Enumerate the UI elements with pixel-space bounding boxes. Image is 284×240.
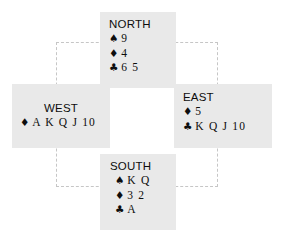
hand-east-label: EAST bbox=[183, 90, 272, 104]
hand-south-diamonds: 3 2 bbox=[127, 189, 145, 201]
club-icon: ♣ bbox=[115, 203, 124, 215]
club-icon: ♣ bbox=[109, 61, 118, 73]
hand-east-clubs-row: ♣ K Q J 10 bbox=[183, 119, 272, 134]
hand-south: SOUTH ♠ K Q ♦ 3 2 ♣ A bbox=[100, 154, 176, 230]
hand-south-label: SOUTH bbox=[109, 159, 176, 173]
hand-west: WEST ♦ A K Q J 10 bbox=[12, 84, 110, 148]
diamond-icon: ♦ bbox=[109, 47, 118, 59]
diamond-icon: ♦ bbox=[115, 189, 124, 201]
hand-north-spades: 9 bbox=[121, 32, 128, 44]
bridge-hand-diagram: NORTH ♠ 9 ♦ 4 ♣ 6 5 WEST ♦ A K Q J 10 EA… bbox=[0, 0, 284, 240]
hand-east-diamonds-row: ♦ 5 bbox=[183, 104, 272, 119]
club-icon: ♣ bbox=[183, 120, 192, 132]
hand-west-diamonds-row: ♦ A K Q J 10 bbox=[20, 115, 110, 130]
hand-north-clubs: 6 5 bbox=[121, 61, 139, 73]
hand-west-diamonds: A K Q J 10 bbox=[32, 116, 96, 128]
hand-south-clubs: A bbox=[127, 203, 137, 215]
hand-east: EAST ♦ 5 ♣ K Q J 10 bbox=[174, 84, 272, 148]
hand-north-diamonds: 4 bbox=[121, 47, 128, 59]
hand-north-diamonds-row: ♦ 4 bbox=[109, 46, 176, 61]
hand-east-diamonds: 5 bbox=[195, 105, 202, 117]
hand-north-clubs-row: ♣ 6 5 bbox=[109, 60, 176, 75]
hand-north: NORTH ♠ 9 ♦ 4 ♣ 6 5 bbox=[100, 12, 176, 88]
hand-east-clubs: K Q J 10 bbox=[195, 120, 246, 132]
spade-icon: ♠ bbox=[109, 32, 118, 44]
hand-south-spades-row: ♠ K Q bbox=[109, 173, 176, 188]
hand-north-label: NORTH bbox=[109, 17, 176, 31]
hand-south-diamonds-row: ♦ 3 2 bbox=[109, 188, 176, 203]
diamond-icon: ♦ bbox=[20, 116, 29, 128]
hand-west-label: WEST bbox=[20, 101, 110, 115]
hand-south-clubs-row: ♣ A bbox=[109, 202, 176, 217]
spade-icon: ♠ bbox=[115, 174, 124, 186]
diamond-icon: ♦ bbox=[183, 105, 192, 117]
hand-south-spades: K Q bbox=[127, 174, 150, 186]
hand-north-spades-row: ♠ 9 bbox=[109, 31, 176, 46]
